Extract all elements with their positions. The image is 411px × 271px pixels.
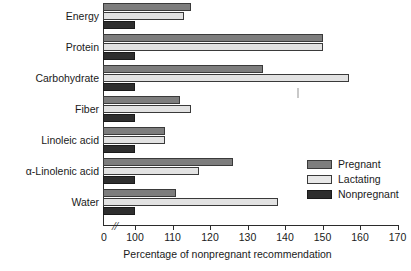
bar-lactating — [103, 12, 184, 20]
bar-pregnant — [103, 34, 323, 42]
x-tick-label: 160 — [340, 231, 380, 243]
x-tick — [323, 225, 324, 230]
bar-pregnant — [103, 127, 165, 135]
legend-swatch-pregnant — [307, 160, 332, 169]
legend-item: Lactating — [307, 173, 399, 186]
legend-swatch-lactating — [307, 175, 332, 184]
x-axis-title: Percentage of nonpregnant recommendation — [0, 248, 411, 260]
bar-pregnant — [103, 189, 176, 197]
category-label: Carbohydrate — [0, 73, 99, 84]
legend-item: Nonpregnant — [307, 188, 399, 201]
x-tick-label: 130 — [228, 231, 268, 243]
bar-pregnant — [103, 96, 180, 104]
category-label: Water — [0, 197, 99, 208]
category-label: Energy — [0, 11, 99, 22]
x-tick-label: 120 — [190, 231, 230, 243]
legend: PregnantLactatingNonpregnant — [307, 158, 399, 203]
legend-label: Lactating — [338, 174, 381, 185]
bar-nonpregnant — [103, 83, 135, 91]
legend-label: Nonpregnant — [338, 189, 399, 200]
category-label: α-Linolenic acid — [0, 166, 99, 177]
bar-lactating — [103, 198, 278, 206]
bar-lactating — [103, 105, 191, 113]
legend-item: Pregnant — [307, 158, 399, 171]
x-tick-label: 150 — [303, 231, 343, 243]
x-tick — [285, 225, 286, 230]
x-axis-line — [103, 225, 399, 226]
x-tick — [248, 225, 249, 230]
x-tick-label: 110 — [153, 231, 193, 243]
legend-label: Pregnant — [338, 159, 381, 170]
bar-nonpregnant — [103, 21, 135, 29]
x-tick-label: 140 — [265, 231, 305, 243]
x-tick — [210, 225, 211, 230]
bar-nonpregnant — [103, 114, 135, 122]
bar-chart: EnergyProteinCarbohydrateFiberLinoleic a… — [0, 0, 411, 271]
bar-lactating — [103, 43, 323, 51]
bar-pregnant — [103, 158, 233, 166]
bar-pregnant — [103, 3, 191, 11]
x-tick — [398, 225, 399, 230]
bar-lactating — [103, 74, 349, 82]
x-tick-label: 100 — [115, 231, 155, 243]
x-tick-label: 170 — [378, 231, 411, 243]
category-label: Linoleic acid — [0, 135, 99, 146]
bar-nonpregnant — [103, 145, 135, 153]
category-label: Protein — [0, 42, 99, 53]
bar-lactating — [103, 136, 165, 144]
x-tick — [135, 225, 136, 230]
bar-lactating — [103, 167, 199, 175]
category-label: Fiber — [0, 104, 99, 115]
scan-artifact — [297, 88, 299, 98]
bar-pregnant — [103, 65, 263, 73]
bar-nonpregnant — [103, 176, 135, 184]
bar-nonpregnant — [103, 207, 135, 215]
bar-nonpregnant — [103, 52, 135, 60]
x-tick — [360, 225, 361, 230]
category-label-group: EnergyProteinCarbohydrateFiberLinoleic a… — [0, 0, 99, 228]
x-axis-title-text: Percentage of nonpregnant recommendation — [123, 248, 331, 260]
legend-swatch-nonpregnant — [307, 190, 332, 199]
x-tick — [173, 225, 174, 230]
